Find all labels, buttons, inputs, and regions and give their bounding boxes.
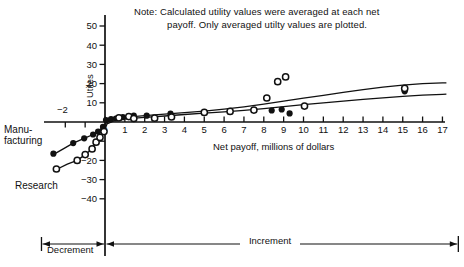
manufacturing-data-point — [50, 151, 56, 157]
x-tick-label: 3 — [162, 124, 167, 135]
manufacturing-data-point — [269, 107, 275, 113]
research-data-point — [97, 134, 103, 140]
x-tick-label: 1 — [122, 124, 127, 135]
x-tick-label: 2 — [142, 124, 147, 135]
manufacturing-data-point — [287, 110, 293, 116]
research-data-point — [74, 157, 80, 163]
research-data-point — [168, 114, 174, 120]
research-data-point — [82, 152, 88, 158]
research-data-point — [131, 115, 137, 121]
chart-note-line1: Note: Calculated utility values were ave… — [134, 7, 379, 18]
x-tick-label: 14 — [378, 124, 389, 135]
increment-range-label: Increment — [240, 236, 300, 247]
research-data-point — [201, 109, 207, 115]
research-data-point — [152, 115, 158, 121]
research-data-point — [275, 79, 281, 85]
x-tick-label: 7 — [241, 124, 246, 135]
arrowhead-right-icon — [450, 241, 457, 247]
series-label-manufacturing-line2: facturing — [4, 136, 42, 147]
series-label-manufacturing-line1: Manu- — [4, 125, 42, 136]
x-tick-label: 13 — [358, 124, 369, 135]
series-label-manufacturing: Manu- facturing — [4, 125, 42, 146]
research-data-point — [251, 107, 257, 113]
research-data-point — [283, 74, 289, 80]
x-tick-label: 16 — [417, 124, 428, 135]
research-data-point — [227, 108, 233, 114]
manufacturing-data-point — [279, 106, 285, 112]
decrement-range-label: Decrement — [47, 245, 93, 256]
research-data-point — [116, 115, 122, 121]
y-tick-label: −40 — [81, 193, 97, 204]
manufacturing-data-point — [144, 113, 150, 119]
x-tick-label: 17 — [437, 124, 448, 135]
x-axis-title: Net payoff, millions of dollars — [213, 142, 334, 153]
chart-note-line2: payoff. Only averaged utilty values are … — [167, 20, 367, 31]
arrowhead-right-icon — [97, 241, 104, 247]
y-tick-label: 10 — [86, 97, 97, 108]
research-data-point — [402, 85, 408, 91]
chart-canvas: 5040302010−20−30−40−20123456789101112131… — [0, 0, 464, 267]
y-axis-title: Utiles — [84, 74, 95, 98]
y-tick-label: 40 — [86, 40, 97, 51]
x-tick-label: 6 — [221, 124, 226, 135]
series-label-research: Research — [15, 181, 58, 192]
y-tick-label: −30 — [81, 174, 97, 185]
y-tick-label: 50 — [86, 20, 97, 31]
research-data-point — [264, 95, 270, 101]
manufacturing-data-point — [70, 140, 76, 146]
manufacturing-data-point — [81, 135, 87, 141]
arrowhead-left-icon — [107, 241, 114, 247]
research-data-point — [301, 103, 307, 109]
x-tick-label: 9 — [281, 124, 286, 135]
x-tick-label: −2 — [57, 104, 68, 115]
utility-chart-figure: 5040302010−20−30−40−20123456789101112131… — [0, 0, 464, 267]
x-tick-label: 10 — [298, 124, 309, 135]
x-tick-label: 15 — [397, 124, 408, 135]
x-tick-label: 11 — [318, 124, 328, 135]
x-tick-label: 8 — [261, 124, 266, 135]
y-tick-label: 30 — [86, 59, 97, 70]
x-tick-label: 12 — [338, 124, 349, 135]
x-tick-label: 5 — [202, 124, 207, 135]
research-data-point — [101, 129, 107, 135]
research-data-point — [53, 166, 59, 172]
x-tick-label: 4 — [182, 124, 187, 135]
research-data-point — [89, 146, 95, 152]
